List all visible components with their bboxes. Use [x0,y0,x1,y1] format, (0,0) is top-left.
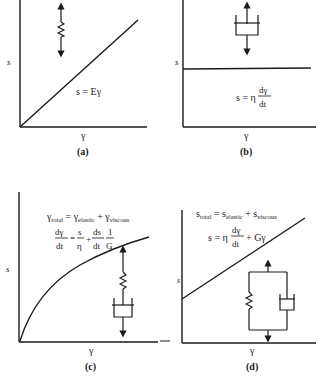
viscoelastic-models-figure: s s = Eγ γ (a) s s = η dγ dt γ (b) [0,0,319,381]
panel-a: s s = Eγ γ (a) [7,0,147,158]
panel-d-equation-1: stotal = selastic + sviscous [196,208,277,220]
panel-d-y-label: s [177,276,180,285]
panel-a-equation: s = Eγ [76,86,102,97]
panel-b-equation: s = η dγ dt [236,85,271,109]
svg-text:s: s [78,227,82,237]
spring-icon [58,6,64,54]
panel-d: s stotal = selastic + sviscous s = η dγ … [160,208,316,373]
panel-d-equation-2: s = η dγ dt + Gγ [208,225,266,249]
panel-c-caption: (c) [85,361,96,373]
svg-text:η: η [77,241,82,251]
panel-a-y-label: s [7,57,11,67]
svg-text:γtotal = γelastic + γviscous: γtotal = γelastic + γviscous [46,211,130,223]
svg-text:s = η: s = η [236,92,256,103]
svg-text:G: G [106,241,113,251]
svg-text:stotal = selastic + sviscous: stotal = selastic + sviscous [196,208,277,220]
panel-b-stress-line [183,68,311,69]
svg-text:=: = [70,233,75,243]
svg-text:dγ: dγ [55,227,64,237]
panel-c-stress-strain-curve [20,237,149,341]
svg-text:dt: dt [259,99,267,109]
maxwell-element-icon [112,249,134,334]
panel-a-stress-strain-line [20,20,138,127]
svg-text:dγ: dγ [232,225,241,235]
panel-b: s s = η dγ dt γ (b) [175,0,316,158]
panel-d-caption: (d) [246,361,258,373]
panel-b-x-label: γ [243,130,249,141]
svg-text:1: 1 [108,227,113,237]
panel-c-equation-2: dγ dt = s η + ds dt 1 G [55,227,114,251]
svg-text:+: + [86,234,91,244]
panel-b-caption: (b) [240,146,252,158]
svg-text:dt: dt [232,239,240,249]
panel-c-x-label: γ [88,345,94,356]
panel-c-equation-1: γtotal = γelastic + γviscous [46,211,130,223]
svg-text:+ Gγ: + Gγ [246,232,266,243]
svg-text:dt: dt [56,241,64,251]
dashpot-icon [234,5,260,52]
panel-c-y-label: s [6,264,10,274]
svg-text:s = η: s = η [208,232,228,243]
panel-c: s γtotal = γelastic + γviscous dγ dt = s… [6,192,158,373]
svg-text:ds: ds [93,227,102,237]
svg-text:dt: dt [93,241,101,251]
panel-d-x-label: γ [249,345,255,356]
panel-a-caption: (a) [77,146,89,158]
panel-a-x-label: γ [80,130,86,141]
svg-text:dγ: dγ [259,85,268,95]
kelvin-voigt-element-icon [246,263,295,339]
panel-b-y-label: s [175,57,179,67]
